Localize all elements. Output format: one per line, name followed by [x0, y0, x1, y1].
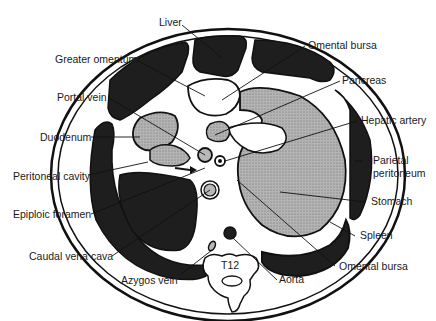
- label-epiploic-foramen: Epiploic foramen: [13, 208, 91, 220]
- vertebra-label: T12: [221, 259, 239, 271]
- label-duodenum: Duodenum: [40, 131, 92, 143]
- label-parietal-peritoneum-1: Parietal: [373, 154, 409, 166]
- label-omental-bursa-top: Omental bursa: [308, 39, 377, 51]
- label-portal-vein: Portal vein: [57, 91, 107, 103]
- label-stomach: Stomach: [371, 195, 413, 207]
- label-pancreas: Pancreas: [342, 74, 386, 86]
- label-greater-omentum: Greater omentum: [55, 53, 138, 65]
- aorta: [224, 227, 236, 239]
- label-spleen: Spleen: [360, 229, 393, 241]
- label-aorta: Aorta: [279, 273, 304, 285]
- label-hepatic-artery: Hepatic artery: [361, 114, 427, 126]
- label-azygos-vein: Azygos vein: [121, 274, 178, 286]
- label-caudal-vena-cava: Caudal vena cava: [29, 250, 113, 262]
- label-peritoneal-cavity: Peritoneal cavity: [13, 170, 91, 182]
- label-omental-bursa-bottom: Omental bursa: [339, 260, 408, 272]
- abdomen-cross-section-diagram: T12 Liver Greater omentum Portal vein Du…: [0, 0, 436, 321]
- label-parietal-peritoneum-2: peritoneum: [373, 167, 426, 179]
- label-liver: Liver: [159, 16, 182, 28]
- pancreas-body: [206, 121, 229, 141]
